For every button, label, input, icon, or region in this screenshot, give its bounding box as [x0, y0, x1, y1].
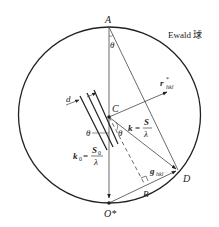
label-k-den: λ — [143, 129, 148, 139]
line-A-D — [109, 27, 178, 170]
point-C — [107, 115, 111, 119]
vector-k — [109, 117, 176, 169]
crystal-plane-3 — [94, 90, 118, 144]
point-O — [107, 201, 111, 205]
label-k-eq: = — [135, 123, 140, 133]
label-A: A — [104, 14, 112, 25]
label-k0-num-sub: 0 — [98, 150, 101, 156]
label-C: C — [112, 103, 119, 114]
ewald-circle — [19, 27, 201, 203]
label-D: D — [182, 173, 191, 184]
label-k0-eq: = — [83, 151, 88, 161]
label-g-hkl: g — [149, 166, 155, 176]
label-theta-right: θ — [118, 128, 123, 138]
label-r-hkl: r — [160, 78, 164, 88]
title-ewald: Ewald 球 — [168, 29, 202, 40]
label-d: d — [66, 94, 71, 104]
label-r-sub: hkl — [166, 84, 174, 90]
ewald-sphere-diagram: A Ewald 球 θ C d θ θ r * hkl k = S λ k 0 … — [0, 0, 219, 227]
label-r-star: * — [166, 76, 169, 82]
label-theta-top: θ — [110, 40, 115, 50]
label-k: k — [128, 123, 133, 133]
label-theta-left: θ — [86, 128, 91, 138]
crystal-plane-1 — [80, 96, 107, 150]
theta-arc-top — [109, 35, 113, 36]
label-B: B — [143, 189, 149, 199]
label-k0-den: λ — [93, 157, 98, 167]
label-g-sub: hkl — [156, 171, 164, 177]
label-k0-num: S — [92, 145, 97, 155]
label-O-star: O* — [104, 208, 116, 219]
label-k0: k — [73, 151, 78, 161]
label-k-num: S — [144, 117, 149, 127]
label-k0-sub: 0 — [79, 156, 82, 162]
